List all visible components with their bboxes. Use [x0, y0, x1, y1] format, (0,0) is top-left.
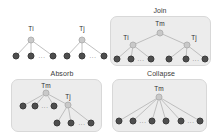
leaf-node-collapse-3 [163, 118, 170, 125]
leaf-node-collapse-4 [178, 118, 185, 125]
ellipsis-absorb-1: ... [79, 120, 86, 126]
panel-title-absorb: Absorb [51, 70, 74, 77]
ellipsis-absorb-0: ... [42, 103, 49, 109]
leaf-node-absorb-4 [68, 120, 75, 127]
leaf-node-join-1 [128, 56, 135, 63]
node-label-join-left: Ti [123, 34, 128, 41]
root-label-tree_i: Ti [28, 25, 33, 32]
leaf-node-absorb-3 [54, 120, 61, 127]
node-label-absorb-child: Tj [65, 93, 71, 100]
internal-node-join-left [130, 42, 137, 49]
internal-node-collapse-root [156, 94, 163, 101]
leaf-node-tree_j-0 [64, 53, 71, 60]
leaf-node-tree_i-1 [28, 53, 35, 60]
leaf-node-tree_j-2 [101, 53, 108, 60]
node-label-join-root: Tm [155, 20, 165, 27]
leaf-node-collapse-2 [149, 118, 156, 125]
internal-node-absorb-child [65, 102, 72, 109]
node-label-absorb-root: Tm [41, 82, 51, 89]
leaf-node-tree_i-2 [50, 53, 57, 60]
internal-node-join-right [184, 42, 191, 49]
leaf-node-join-4 [183, 56, 190, 63]
diagram-canvas: Join Absorb Collapse Ti...Tj...TmTiTj...… [0, 0, 215, 137]
ellipsis-collapse-0: ... [140, 118, 147, 124]
leaf-node-join-3 [166, 56, 173, 63]
panel-title-collapse: Collapse [147, 70, 175, 77]
internal-node-absorb-root [43, 90, 50, 97]
node-label-collapse-root: Tm [154, 85, 164, 92]
ellipsis-tree_j-0: ... [90, 53, 97, 59]
ellipsis-join-1: ... [193, 56, 200, 62]
leaf-node-join-0 [114, 56, 121, 63]
internal-node-join-root [157, 30, 164, 37]
ellipsis-join-0: ... [138, 56, 145, 62]
leaf-node-absorb-0 [20, 103, 27, 110]
leaf-node-collapse-5 [197, 118, 204, 125]
leaf-node-absorb-2 [51, 103, 58, 110]
node-label-join-right: Tj [191, 34, 197, 41]
leaf-node-tree_i-0 [13, 53, 20, 60]
leaf-node-absorb-1 [32, 103, 39, 110]
leaf-node-join-2 [148, 56, 155, 63]
leaf-node-tree_j-1 [79, 53, 86, 60]
panel-title-join: Join [153, 7, 166, 14]
leaf-node-absorb-5 [88, 120, 95, 127]
root-node-tree_j [79, 37, 86, 44]
ellipsis-collapse-1: ... [188, 118, 195, 124]
leaf-node-collapse-0 [116, 118, 123, 125]
leaf-node-collapse-1 [130, 118, 137, 125]
ellipsis-tree_i-0: ... [39, 53, 46, 59]
root-label-tree_j: Tj [79, 25, 85, 32]
root-node-tree_i [28, 37, 35, 44]
leaf-node-join-5 [202, 56, 209, 63]
